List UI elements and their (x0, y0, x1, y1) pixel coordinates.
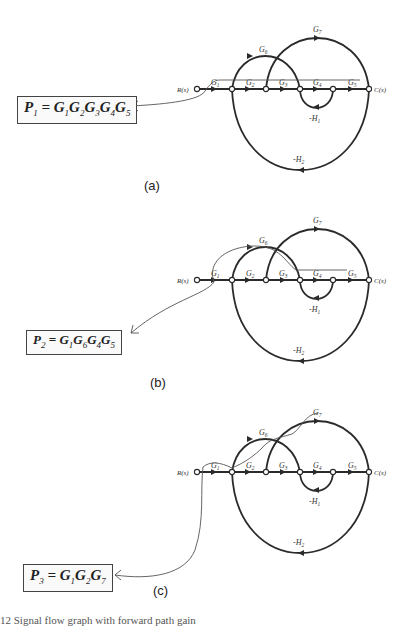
p3-highlight-trace (203, 413, 318, 468)
equation-p3: P3 = G1G2G7 (23, 564, 113, 592)
panel-label-c: (c) (153, 583, 168, 598)
panel-label-b: (b) (150, 375, 166, 390)
p2-pointer-line (131, 282, 214, 333)
figure-caption: 12 Signal flow graph with forward path g… (0, 614, 196, 626)
p1-pointer-line (131, 91, 205, 106)
panel-c-graph (115, 408, 387, 580)
equation-p2: P2 = G1G6G4G5 (26, 330, 122, 355)
panel-label-a: (a) (144, 178, 160, 193)
equation-p1: P1 = G1G2G3G4G5 (17, 96, 137, 124)
p3-pointer-line (115, 467, 203, 577)
panel-a-graph (131, 25, 387, 173)
panel-b-graph (131, 216, 387, 364)
signal-flow-figure: R(s) C(s) G1 G2 G3 G4 G5 G6 G7 -H1 -H2 (0, 0, 406, 627)
